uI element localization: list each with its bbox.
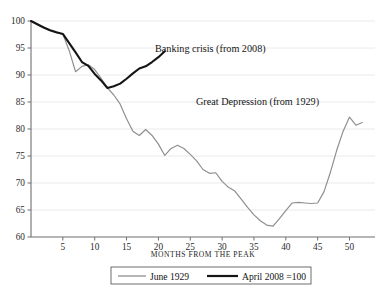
x-tick-label: 10 xyxy=(90,242,100,252)
y-axis: 1009590858075706560 xyxy=(11,16,31,242)
line-chart: 1009590858075706560 5101520253035404550 … xyxy=(0,0,392,296)
y-axis-tick-labels: 1009590858075706560 xyxy=(11,16,25,242)
y-tick-label: 60 xyxy=(16,232,26,242)
x-tick-label: 40 xyxy=(281,242,291,252)
annotation-great-depression: Great Depression (from 1929) xyxy=(196,96,319,108)
x-tick-label: 50 xyxy=(345,242,355,252)
legend-label-june-1929: June 1929 xyxy=(150,271,189,282)
annotation-banking-crisis: Banking crisis (from 2008) xyxy=(155,43,266,55)
y-tick-label: 75 xyxy=(16,151,26,161)
y-tick-label: 65 xyxy=(16,205,26,215)
x-tick-label: 15 xyxy=(122,242,132,252)
y-tick-label: 95 xyxy=(16,43,26,53)
y-tick-label: 70 xyxy=(16,178,26,188)
chart-container: 1009590858075706560 5101520253035404550 … xyxy=(0,0,392,296)
x-tick-label: 45 xyxy=(313,242,323,252)
y-tick-label: 85 xyxy=(16,97,26,107)
x-axis-title: MONTHS FROM THE PEAK xyxy=(151,250,256,259)
legend-label-april-2008: April 2008 =100 xyxy=(242,271,306,282)
legend: June 1929 April 2008 =100 xyxy=(111,267,311,284)
y-tick-label: 90 xyxy=(16,70,26,80)
x-tick-label: 5 xyxy=(61,242,66,252)
y-tick-label: 80 xyxy=(16,124,26,134)
y-tick-label: 100 xyxy=(11,16,25,26)
line-banking-crisis xyxy=(31,21,165,88)
